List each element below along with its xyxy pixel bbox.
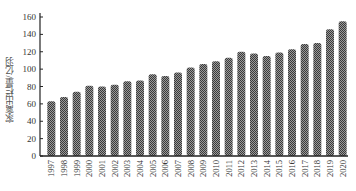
x-tick-label: 2008 bbox=[186, 160, 196, 177]
bar-2007 bbox=[174, 73, 182, 156]
x-tick-label: 2014 bbox=[262, 159, 272, 177]
bar-1997 bbox=[47, 101, 55, 156]
bar-2009 bbox=[199, 64, 207, 156]
x-tick-label: 2020 bbox=[338, 160, 348, 177]
bar-2003 bbox=[123, 81, 131, 156]
bar-2020 bbox=[339, 21, 347, 156]
y-axis-label: 家禽出栏量/亿羽 bbox=[2, 40, 16, 140]
bar-2008 bbox=[187, 67, 195, 156]
bar-2012 bbox=[237, 52, 245, 156]
bar-2011 bbox=[225, 58, 233, 156]
bar-2014 bbox=[263, 56, 271, 156]
x-tick-label: 2005 bbox=[148, 160, 158, 177]
bar-2019 bbox=[326, 29, 334, 156]
x-tick-label: 2002 bbox=[110, 160, 120, 177]
chart-canvas: 020406080100120140160 199719981999200020… bbox=[0, 0, 356, 191]
bar-1999 bbox=[73, 92, 81, 156]
x-axis: 1997199819992000200120022003200420052006… bbox=[40, 156, 348, 177]
bar-2016 bbox=[288, 49, 296, 156]
y-tick-label: 40 bbox=[27, 116, 37, 126]
bar-1998 bbox=[60, 97, 68, 156]
x-tick-label: 1997 bbox=[46, 160, 56, 177]
bar-2017 bbox=[301, 44, 309, 156]
y-tick-label: 80 bbox=[27, 82, 37, 92]
x-tick-label: 2016 bbox=[287, 160, 297, 177]
y-tick-label: 20 bbox=[27, 134, 37, 144]
x-tick-label: 2007 bbox=[173, 160, 183, 177]
x-tick-label: 1999 bbox=[72, 160, 82, 177]
x-tick-label: 2011 bbox=[224, 160, 234, 177]
x-tick-label: 2006 bbox=[160, 160, 170, 177]
y-tick-label: 120 bbox=[23, 47, 37, 57]
x-tick-label: 2012 bbox=[236, 160, 246, 177]
y-tick-label: 0 bbox=[32, 151, 37, 161]
x-tick-label: 2019 bbox=[325, 160, 335, 177]
bar-2018 bbox=[313, 43, 321, 156]
y-tick-label: 140 bbox=[23, 29, 37, 39]
bar-2001 bbox=[98, 87, 106, 157]
bar-2000 bbox=[85, 86, 93, 156]
x-tick-label: 2010 bbox=[211, 160, 221, 177]
bar-2013 bbox=[250, 53, 258, 156]
bars bbox=[47, 21, 346, 156]
bar-2015 bbox=[275, 53, 283, 156]
x-tick-label: 2000 bbox=[84, 160, 94, 177]
x-tick-label: 2018 bbox=[312, 160, 322, 177]
bar-2005 bbox=[149, 74, 157, 156]
y-axis: 020406080100120140160 bbox=[23, 12, 44, 161]
bar-2010 bbox=[212, 61, 220, 156]
bar-chart: 020406080100120140160 199719981999200020… bbox=[0, 0, 356, 191]
x-tick-label: 2004 bbox=[135, 159, 145, 177]
bar-2004 bbox=[136, 80, 144, 156]
x-tick-label: 2017 bbox=[300, 160, 310, 177]
bar-2006 bbox=[161, 76, 169, 156]
bar-2002 bbox=[111, 85, 119, 156]
y-tick-label: 100 bbox=[23, 64, 37, 74]
x-tick-label: 2003 bbox=[122, 160, 132, 177]
y-tick-label: 160 bbox=[23, 12, 37, 22]
x-tick-label: 2009 bbox=[198, 160, 208, 177]
x-tick-label: 2001 bbox=[97, 160, 107, 177]
x-tick-label: 2015 bbox=[274, 160, 284, 177]
x-tick-label: 2013 bbox=[249, 160, 259, 177]
y-tick-label: 60 bbox=[27, 99, 37, 109]
x-tick-label: 1998 bbox=[59, 160, 69, 177]
